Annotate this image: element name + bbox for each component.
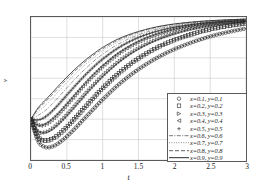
legend-label: x=0.4, y=0.4	[190, 117, 222, 124]
legend-label: x=0.8, y=0.8	[190, 147, 222, 154]
legend-solid-line-icon	[168, 154, 190, 161]
legend-row[interactable]: x=0.3, y=0.3	[168, 110, 246, 117]
legend-label: x=0.5, y=0.5	[190, 125, 222, 132]
x-tick-label: 1.5	[124, 163, 154, 171]
legend-square-marker-icon	[168, 102, 190, 109]
legend-box[interactable]: x=0.1, y=0.1x=0.2, y=0.2x=0.3, y=0.3x=0.…	[167, 93, 247, 162]
legend-circle-marker-icon	[168, 95, 190, 102]
legend-row[interactable]: x=0.1, y=0.1	[168, 95, 246, 102]
figure-canvas: v 0.30.40.50.60.70.80.91 00.511.522.53 t…	[0, 0, 257, 189]
legend-label: x=0.1, y=0.1	[190, 95, 222, 102]
x-tick-label: 3	[232, 163, 257, 171]
legend-row[interactable]: x=0.9, y=0.9	[168, 154, 246, 161]
x-tick-label: 0	[15, 163, 45, 171]
x-tick-label: 2.5	[196, 163, 226, 171]
legend-row[interactable]: x=0.6, y=0.6	[168, 132, 246, 139]
legend-dotted-line-icon	[168, 139, 190, 146]
x-tick-label: 1	[87, 163, 117, 171]
x-tick-label: 2	[160, 163, 190, 171]
legend-label: x=0.2, y=0.2	[190, 102, 222, 109]
legend-plus-marker-icon	[168, 125, 190, 132]
legend-label: x=0.3, y=0.3	[190, 110, 222, 117]
legend-dashed-line-icon	[168, 147, 190, 154]
legend-label: x=0.7, y=0.7	[190, 139, 222, 146]
x-tick-label: 0.5	[51, 163, 81, 171]
legend-row[interactable]: x=0.4, y=0.4	[168, 117, 246, 124]
legend-row[interactable]: x=0.2, y=0.2	[168, 102, 246, 109]
legend-row[interactable]: x=0.8, y=0.8	[168, 147, 246, 154]
legend-row[interactable]: x=0.7, y=0.7	[168, 139, 246, 146]
legend-dashdot-line-icon	[168, 132, 190, 139]
legend-left-triangle-marker-icon	[168, 117, 190, 124]
legend-right-triangle-marker-icon	[168, 110, 190, 117]
x-axis-label: t	[0, 173, 257, 182]
legend-row[interactable]: x=0.5, y=0.5	[168, 125, 246, 132]
legend-label: x=0.6, y=0.6	[190, 132, 222, 139]
legend-label: x=0.9, y=0.9	[190, 154, 222, 161]
y-axis-label: v	[1, 79, 9, 82]
